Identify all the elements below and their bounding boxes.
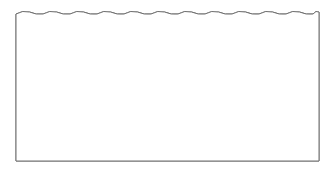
fish-scale-figure [0, 0, 333, 171]
fish-scale-pattern-canvas [0, 0, 333, 171]
frame-border [16, 11, 319, 161]
